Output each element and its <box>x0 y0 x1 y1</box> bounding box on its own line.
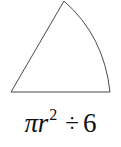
exponent-two: 2 <box>49 107 57 123</box>
sector-figure <box>0 0 121 98</box>
divisor-value: 6 <box>83 110 97 137</box>
radius-variable: r <box>38 110 49 137</box>
area-formula: πr2÷6 <box>0 100 121 147</box>
sector-drawing <box>0 0 121 98</box>
diagram-page: πr2÷6 <box>0 0 121 147</box>
pi-symbol: π <box>25 110 38 137</box>
sector-outline-path <box>11 1 110 92</box>
division-operator: ÷ <box>65 111 79 136</box>
